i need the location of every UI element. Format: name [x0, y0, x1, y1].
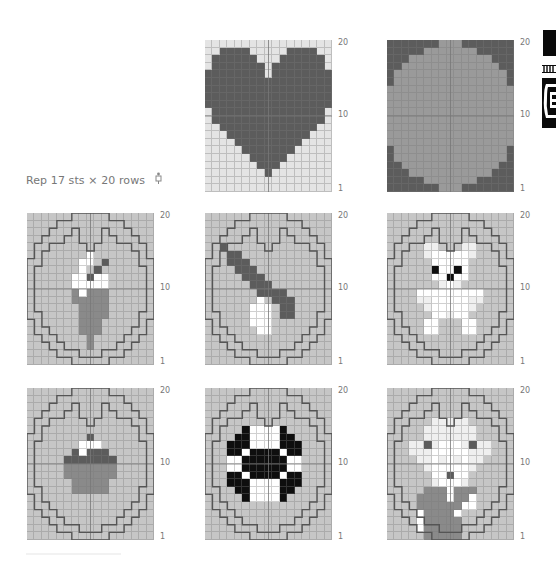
stitch-cell — [280, 525, 287, 533]
stitch-cell — [227, 456, 234, 464]
stitch-cell — [280, 63, 287, 71]
stitch-cell — [220, 327, 227, 335]
stitch-cell — [492, 154, 499, 162]
stitch-cell — [265, 228, 272, 236]
stitch-cell — [280, 464, 287, 472]
stitch-cell — [417, 342, 424, 350]
stitch-cell — [212, 411, 219, 419]
stitch-cell — [87, 335, 94, 343]
stitch-cell — [484, 312, 491, 320]
stitch-cell — [287, 426, 294, 434]
stitch-cell — [507, 169, 514, 177]
stitch-cell — [227, 297, 234, 305]
stitch-cell — [34, 221, 41, 229]
stitch-cell — [484, 396, 491, 404]
stitch-cell — [325, 184, 332, 192]
stitch-cell — [109, 213, 116, 221]
stitch-cell — [272, 281, 279, 289]
stitch-cell — [417, 449, 424, 457]
stitch-cell — [477, 116, 484, 124]
stitch-cell — [132, 274, 139, 282]
stitch-cell — [409, 487, 416, 495]
stitch-cell — [132, 479, 139, 487]
stitch-cell — [280, 342, 287, 350]
stitch-cell — [402, 411, 409, 419]
stitch-cell — [447, 93, 454, 101]
stitch-cell — [492, 403, 499, 411]
stitch-cell — [27, 251, 34, 259]
stitch-cell — [295, 350, 302, 358]
stitch-cell — [57, 289, 64, 297]
stitch-cell — [242, 441, 249, 449]
stitch-cell — [147, 525, 154, 533]
stitch-cell — [117, 289, 124, 297]
stitch-cell — [387, 472, 394, 480]
stitch-cell — [64, 418, 71, 426]
stitch-cell — [79, 434, 86, 442]
stitch-cell — [227, 289, 234, 297]
stitch-cell — [79, 319, 86, 327]
stitch-cell — [212, 464, 219, 472]
stitch-cell — [477, 456, 484, 464]
stitch-cell — [42, 236, 49, 244]
stitch-cell — [132, 213, 139, 221]
stitch-cell — [394, 342, 401, 350]
stitch-cell — [402, 63, 409, 71]
stitch-cell — [280, 456, 287, 464]
stitch-cell — [432, 510, 439, 518]
stitch-cell — [462, 532, 469, 540]
stitch-cell — [492, 312, 499, 320]
stitch-cell — [325, 327, 332, 335]
stitch-cell — [417, 479, 424, 487]
stitch-cell — [424, 228, 431, 236]
stitch-cell — [227, 426, 234, 434]
stitch-cell — [79, 494, 86, 502]
stitch-cell — [447, 319, 454, 327]
stitch-cell — [402, 213, 409, 221]
stitch-cell — [454, 487, 461, 495]
stitch-cell — [57, 502, 64, 510]
stitch-cell — [205, 464, 212, 472]
stitch-cell — [34, 350, 41, 358]
stitch-cell — [499, 403, 506, 411]
stitch-cell — [417, 388, 424, 396]
stitch-cell — [79, 350, 86, 358]
stitch-cell — [439, 396, 446, 404]
stitch-cell — [132, 426, 139, 434]
stitch-cell — [469, 510, 476, 518]
stitch-cell — [499, 525, 506, 533]
stitch-cell — [499, 221, 506, 229]
stitch-cell — [484, 55, 491, 63]
stitch-cell — [42, 418, 49, 426]
stitch-cell — [227, 266, 234, 274]
stitch-cell — [109, 388, 116, 396]
stitch-cell — [87, 304, 94, 312]
stitch-cell — [454, 78, 461, 86]
stitch-cell — [402, 108, 409, 116]
stitch-cell — [124, 396, 131, 404]
stitch-cell — [235, 327, 242, 335]
stitch-cell — [317, 289, 324, 297]
stitch-cell — [462, 101, 469, 109]
stitch-cell — [64, 388, 71, 396]
stitch-cell — [439, 517, 446, 525]
stitch-cell — [235, 274, 242, 282]
stitch-cell — [250, 449, 257, 457]
stitch-cell — [325, 418, 332, 426]
stitch-cell — [462, 388, 469, 396]
stitch-cell — [42, 403, 49, 411]
stitch-cell — [499, 243, 506, 251]
stitch-cell — [469, 93, 476, 101]
stitch-cell — [265, 274, 272, 282]
stitch-cell — [325, 441, 332, 449]
stitch-cell — [212, 78, 219, 86]
stitch-cell — [139, 464, 146, 472]
stitch-cell — [235, 124, 242, 132]
stitch-cell — [34, 396, 41, 404]
stitch-cell — [250, 213, 257, 221]
stitch-cell — [49, 357, 56, 365]
stitch-cell — [34, 213, 41, 221]
stitch-cell — [409, 532, 416, 540]
stitch-cell — [402, 441, 409, 449]
stitch-cell — [424, 289, 431, 297]
